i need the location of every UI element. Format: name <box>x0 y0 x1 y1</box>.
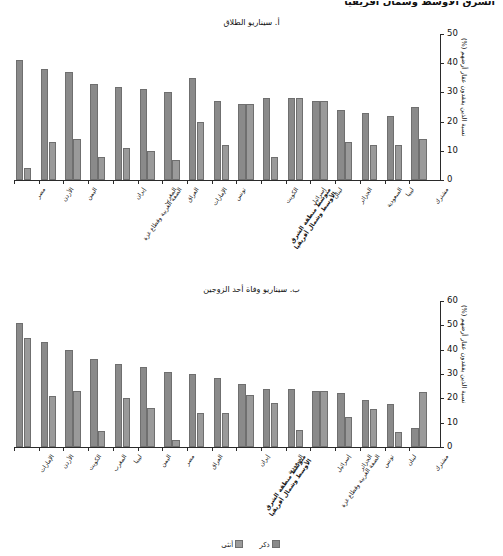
x-axis-tick <box>310 181 311 184</box>
x-axis-tick <box>187 181 188 184</box>
x-axis-category-label: مشترك <box>433 186 449 205</box>
x-axis-category-label: الكويت <box>284 186 300 204</box>
bar-male <box>411 428 418 447</box>
bar-male <box>312 101 319 180</box>
x-axis-category-label: تونس <box>381 453 395 469</box>
x-axis-category-label: المغرب <box>111 453 128 472</box>
x-axis-tick <box>409 181 410 184</box>
x-axis-line <box>14 180 440 181</box>
x-axis-category-label: الإمارات <box>211 186 228 207</box>
legend-label-female: أنثى <box>221 541 233 549</box>
x-axis-category-label: العراق <box>184 186 199 203</box>
figure-top-heading: الشرق الأوسط وشمال أفريقيا <box>344 0 495 7</box>
bar-female <box>246 104 253 180</box>
bar-female <box>73 139 80 180</box>
y-axis-tick <box>440 325 444 326</box>
x-axis-tick <box>286 181 287 184</box>
bar-female <box>222 145 229 180</box>
chart-panel-b: ب. سيناريو وفاة أحد الزوجين 010203040506… <box>0 285 503 535</box>
bar-male <box>411 107 418 180</box>
bar-female <box>147 151 154 180</box>
figure-root: الشرق الأوسط وشمال أفريقيا أ. سيناريو ال… <box>0 0 503 556</box>
bar-female <box>98 157 105 180</box>
bar-female <box>271 403 278 447</box>
bar-male <box>41 69 48 180</box>
bar-male <box>16 323 23 447</box>
x-axis-tick <box>187 448 188 451</box>
panel-a-plot-area: 01020304050نسبة الذين يفقدون عقار أرضهم … <box>14 34 434 180</box>
bar-female <box>271 157 278 180</box>
bar-female <box>395 145 402 180</box>
chart-legend: ذكر أنثى <box>0 540 503 549</box>
bar-female <box>296 430 303 447</box>
bar-male <box>362 113 369 180</box>
x-axis-category-label: مصر <box>34 186 46 200</box>
bar-male <box>263 389 270 447</box>
bar-female <box>246 395 253 447</box>
y-axis-tick-label: 50 <box>447 319 458 329</box>
x-axis-tick <box>385 448 386 451</box>
panel-b-plot-area: 0102030405060نسبة الذين يفقدون عقار أرضه… <box>14 301 434 447</box>
bar-female <box>172 160 179 180</box>
bar-male <box>140 367 147 447</box>
bar-female <box>197 122 204 180</box>
bar-female <box>24 168 31 180</box>
y-axis-tick <box>440 63 444 64</box>
x-axis-category-label: متوسط منطقة الشرق الأوسط وشمال أفريقيا <box>259 453 313 522</box>
x-axis-tick <box>39 181 40 184</box>
bar-male <box>41 342 48 447</box>
bar-male <box>387 404 394 447</box>
legend-item-female: أنثى <box>221 540 245 549</box>
x-axis-category-label: اليمن <box>84 186 97 201</box>
x-axis-line <box>14 447 440 448</box>
y-axis-tick-label: 0 <box>447 441 452 451</box>
y-axis-tick-label: 0 <box>447 174 452 184</box>
bar-female <box>24 338 31 448</box>
bar-male <box>337 110 344 180</box>
bar-female <box>49 396 56 447</box>
x-axis-category-label: ليبيا <box>404 186 415 197</box>
y-axis-tick <box>440 151 444 152</box>
x-axis-tick <box>335 181 336 184</box>
bar-male <box>238 104 245 180</box>
bar-female <box>296 98 303 180</box>
bar-male <box>387 116 394 180</box>
bar-female <box>320 101 327 180</box>
x-axis-category-label: السعودية <box>385 186 404 208</box>
y-axis-tick-label: 30 <box>447 86 458 96</box>
panel-b-title: ب. سيناريو وفاة أحد الزوجين <box>0 285 503 294</box>
x-axis-tick <box>409 448 410 451</box>
x-axis-category-label: لبنان <box>405 453 417 467</box>
bar-female <box>123 398 130 447</box>
y-axis-tick-label: 40 <box>447 57 458 67</box>
x-axis-category-label: الجزائر <box>358 186 374 204</box>
y-axis-tick <box>440 180 444 181</box>
x-axis-tick <box>138 181 139 184</box>
x-axis-tick <box>360 181 361 184</box>
x-axis-tick <box>310 448 311 451</box>
bar-male <box>140 89 147 180</box>
bar-female <box>197 413 204 447</box>
y-axis-tick-label: 30 <box>447 368 458 378</box>
bar-male <box>65 350 72 447</box>
x-axis-tick <box>212 181 213 184</box>
y-axis-tick <box>440 350 444 351</box>
bar-female <box>222 413 229 447</box>
y-axis-tick-label: 40 <box>447 344 458 354</box>
bar-male <box>288 98 295 180</box>
x-axis-category-label: تونس <box>233 186 247 202</box>
x-axis-category-label: مصر <box>183 453 195 467</box>
y-axis-tick <box>440 398 444 399</box>
chart-panel-a: أ. سيناريو الطلاق 01020304050نسبة الذين … <box>0 18 503 268</box>
x-axis-category-label: الأردن <box>60 186 74 202</box>
x-axis-tick <box>261 181 262 184</box>
legend-label-male: ذكر <box>259 541 269 549</box>
legend-item-male: ذكر <box>259 540 281 549</box>
bar-female <box>370 145 377 180</box>
bar-male <box>65 72 72 180</box>
y-axis-tick-label: 50 <box>447 28 458 38</box>
x-axis-tick <box>236 448 237 451</box>
x-axis-tick <box>385 181 386 184</box>
y-axis-label: نسبة الذين يفقدون عقار أرضهم (%) <box>460 305 468 403</box>
y-axis-tick-label: 10 <box>447 417 458 427</box>
